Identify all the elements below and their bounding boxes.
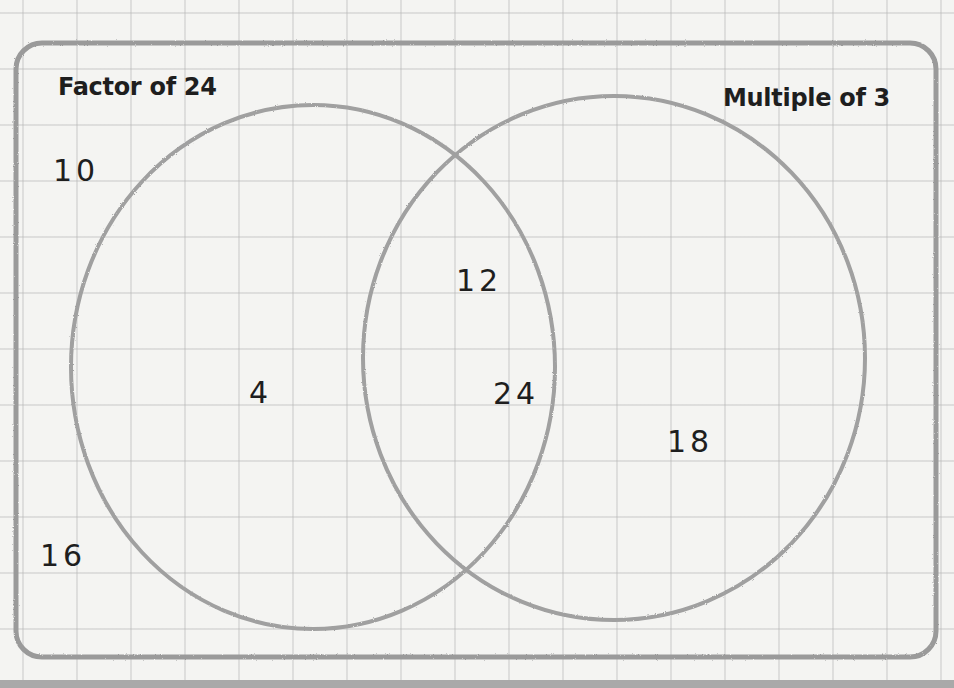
- right-only-value-18: 18: [667, 424, 713, 459]
- left-set-circle: [71, 105, 555, 629]
- left-set-title: Factor of 24: [58, 73, 217, 101]
- intersection-value-24: 24: [493, 376, 539, 411]
- right-set-title: Multiple of 3: [723, 84, 890, 112]
- outside-value-10: 10: [53, 153, 99, 188]
- left-only-value-4: 4: [249, 375, 272, 410]
- intersection-value-12: 12: [456, 263, 502, 298]
- right-set-circle: [363, 96, 865, 620]
- outside-value-16: 16: [40, 538, 86, 573]
